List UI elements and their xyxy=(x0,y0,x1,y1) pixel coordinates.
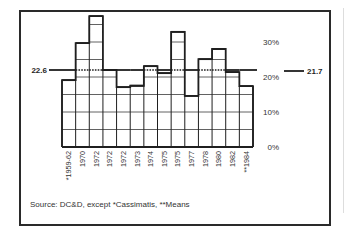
x-tick-label: 1974 xyxy=(146,151,155,167)
y-tick-label: 20% xyxy=(263,73,279,82)
x-tick-label: *1959-62 xyxy=(64,151,73,180)
x-tick-label: 1982 xyxy=(228,151,237,167)
bar-chart: 22.621.7 0%10%20%30% *1959-6219701972197… xyxy=(0,0,345,233)
mean-left-label: 22.6 xyxy=(31,66,47,75)
x-tick-label: 1978 xyxy=(201,151,210,167)
x-axis-ticks: *1959-6219701972197219721973197419751975… xyxy=(64,151,250,180)
x-tick-label: 1972 xyxy=(119,151,128,167)
x-tick-label: **1984 xyxy=(242,151,251,173)
bars xyxy=(62,16,253,147)
x-tick-label: 1972 xyxy=(105,151,114,167)
x-tick-label: 1980 xyxy=(214,151,223,167)
x-tick-label: 1972 xyxy=(92,151,101,167)
y-tick-label: 10% xyxy=(263,108,279,117)
x-tick-label: 1977 xyxy=(187,151,196,167)
x-tick-label: 1973 xyxy=(133,151,142,167)
y-tick-label: 30% xyxy=(263,38,279,47)
x-tick-label: 1970 xyxy=(78,151,87,167)
mean-right-label: 21.7 xyxy=(307,67,323,76)
x-tick-label: 1975 xyxy=(173,151,182,167)
y-tick-label: 0% xyxy=(267,143,279,152)
y-axis-ticks: 0%10%20%30% xyxy=(263,38,279,152)
source-note: Source: DC&D, except *Cassimatis, **Mean… xyxy=(30,200,190,209)
x-tick-label: 1975 xyxy=(160,151,169,167)
